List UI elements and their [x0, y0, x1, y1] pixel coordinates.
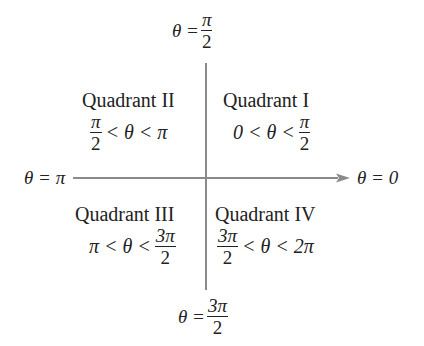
axis-bottom-fraction: 3π 2	[207, 296, 228, 337]
quadrant-4-range: 3π 2 < θ < 2π	[215, 226, 316, 267]
axis-top-lhs: θ =	[172, 20, 199, 42]
fraction: 3π 2	[155, 226, 176, 267]
fraction-denominator: 2	[91, 133, 101, 153]
quadrant-4-name: Quadrant IV	[215, 203, 316, 226]
fraction-numerator: 3π	[155, 226, 176, 247]
axis-label-bottom: θ = 3π 2	[178, 296, 230, 337]
inequality-text: 0 < θ <	[233, 121, 295, 144]
fraction-numerator: 3π	[217, 226, 238, 247]
axis-label-left: θ = π	[24, 167, 65, 189]
axis-bottom-lhs: θ =	[178, 306, 205, 328]
fraction-numerator: π	[90, 112, 102, 133]
axis-label-top: θ = π 2	[172, 10, 214, 51]
quadrant-3: Quadrant III π < θ < 3π 2	[75, 203, 178, 267]
quadrant-1-range: 0 < θ < π 2	[231, 112, 312, 153]
fraction-denominator: 2	[223, 247, 233, 267]
quadrant-2: Quadrant II π 2 < θ < π	[82, 89, 175, 153]
quadrant-2-name: Quadrant II	[82, 89, 175, 112]
inequality-text: < θ < π	[106, 121, 168, 144]
fraction: 3π 2	[217, 226, 238, 267]
fraction-denominator: 2	[161, 247, 171, 267]
quadrant-3-name: Quadrant III	[75, 203, 178, 226]
fraction-numerator: π	[201, 10, 213, 31]
arrow-right-icon	[336, 174, 350, 183]
quadrant-1-name: Quadrant I	[223, 89, 312, 112]
axis-label-right: θ = 0	[357, 167, 398, 189]
quadrant-3-range: π < θ < 3π 2	[87, 226, 178, 267]
fraction-numerator: 3π	[207, 296, 228, 317]
fraction-denominator: 2	[300, 133, 310, 153]
quadrant-4: Quadrant IV 3π 2 < θ < 2π	[215, 203, 316, 267]
fraction: π 2	[299, 112, 311, 153]
fraction: π 2	[90, 112, 102, 153]
fraction-denominator: 2	[213, 317, 223, 337]
inequality-text: < θ < 2π	[242, 235, 314, 258]
fraction-denominator: 2	[202, 31, 212, 51]
axis-top-fraction: π 2	[201, 10, 213, 51]
quadrant-2-range: π 2 < θ < π	[88, 112, 175, 153]
inequality-text: π < θ <	[89, 235, 151, 258]
quadrant-1: Quadrant I 0 < θ < π 2	[223, 89, 312, 153]
fraction-numerator: π	[299, 112, 311, 133]
